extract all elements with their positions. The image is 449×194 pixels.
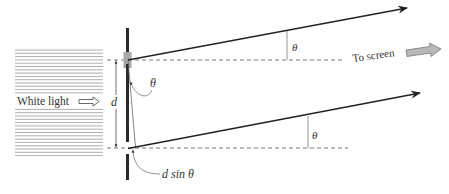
theta-slit-leader <box>131 83 152 96</box>
slit-barrier <box>124 28 132 180</box>
d-label: d <box>111 95 118 109</box>
path-difference-perpendicular <box>128 60 136 148</box>
path-difference-label: d sin θ <box>162 167 194 181</box>
bottom-ray <box>128 93 420 149</box>
theta-slit-label: θ <box>150 76 156 90</box>
theta-bottom-label: θ <box>312 129 318 141</box>
theta-top-label: θ <box>292 41 298 53</box>
double-slit-diagram: White light d θ θ θ d sin θ To screen <box>0 0 449 194</box>
to-screen-label: To screen <box>352 46 396 64</box>
to-screen-arrow-icon <box>406 43 441 57</box>
dsin-leader <box>133 151 160 174</box>
white-light-label: White light <box>17 95 70 108</box>
